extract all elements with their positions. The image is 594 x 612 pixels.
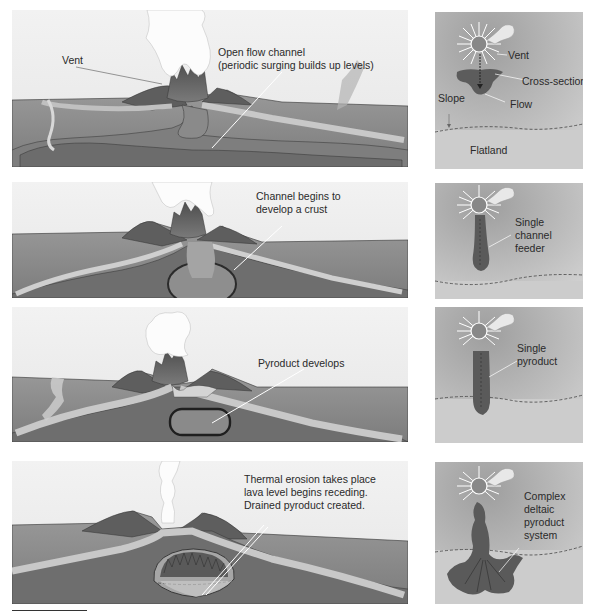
footnote-rule (12, 610, 87, 611)
plan-vent-label: Vent (508, 49, 529, 62)
single-channel-feeder-label-1: Single (515, 216, 544, 229)
plan-slope-label: Slope (438, 92, 465, 105)
stage-4-plan-view: Complex deltaic pyroduct system (435, 462, 583, 604)
stage-1-cross-section: Vent Open flow channel (periodic surging… (12, 10, 408, 167)
stage-1-plan-illustration (435, 12, 583, 169)
complex-deltaic-label-2: deltaic (524, 503, 554, 516)
plan-flow-label: Flow (510, 98, 532, 111)
channel-crust-sublabel: develop a crust (256, 203, 327, 216)
stage-3-plan-illustration (435, 307, 583, 443)
stage-1-volcano-illustration (12, 10, 408, 167)
stage-1-plan-view: Vent Cross-section Slope Flow Flatland (435, 12, 583, 169)
thermal-erosion-label-1: Thermal erosion takes place (244, 473, 376, 486)
complex-deltaic-label-3: pyroduct (524, 516, 564, 529)
channel-crust-label: Channel begins to (256, 190, 341, 203)
stage-3-cross-section: Pyroduct develops (12, 307, 408, 442)
stage-3-volcano-illustration (12, 307, 408, 442)
stage-4-plan-illustration (435, 462, 583, 604)
single-channel-feeder-label-3: feeder (515, 242, 545, 255)
single-pyroduct-label-2: pyroduct (517, 355, 557, 368)
stage-2-plan-view: Single channel feeder (435, 183, 583, 299)
open-flow-channel-sublabel: (periodic surging builds up levels) (218, 59, 374, 72)
thermal-erosion-label-3: Drained pyroduct created. (244, 499, 365, 512)
single-channel-feeder-label-2: channel (515, 229, 552, 242)
pyroduct-develops-label: Pyroduct develops (258, 357, 344, 370)
complex-deltaic-label-4: system (524, 529, 557, 542)
thermal-erosion-label-2: lava level begins receding. (244, 486, 368, 499)
vent-label: Vent (62, 54, 83, 67)
single-pyroduct-label-1: Single (517, 342, 546, 355)
complex-deltaic-label-1: Complex (524, 490, 565, 503)
open-flow-channel-label: Open flow channel (218, 46, 305, 59)
stage-2-volcano-illustration (12, 182, 408, 298)
stage-3-plan-view: Single pyroduct (435, 307, 583, 443)
plan-cross-section-label: Cross-section (522, 75, 583, 88)
plan-flatland-label: Flatland (470, 144, 507, 157)
stage-2-plan-illustration (435, 183, 583, 299)
stage-2-cross-section: Channel begins to develop a crust (12, 182, 408, 298)
stage-4-cross-section: Thermal erosion takes place lava level b… (12, 461, 408, 604)
